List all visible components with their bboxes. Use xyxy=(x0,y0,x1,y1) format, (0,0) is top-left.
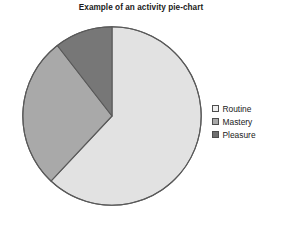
pie-chart-figure: Example of an activity pie-chart Routine… xyxy=(0,0,282,226)
legend-item-mastery[interactable]: Mastery xyxy=(212,115,280,128)
pie-svg xyxy=(22,26,202,206)
pie-chart-plot-area xyxy=(22,26,202,206)
legend-swatch-pleasure-icon xyxy=(212,131,219,138)
legend-item-pleasure[interactable]: Pleasure xyxy=(212,128,280,141)
chart-title: Example of an activity pie-chart xyxy=(0,3,282,13)
legend-swatch-routine-icon xyxy=(212,105,219,112)
legend-swatch-mastery-icon xyxy=(212,118,219,125)
legend-item-routine[interactable]: Routine xyxy=(212,102,280,115)
legend-label-pleasure: Pleasure xyxy=(223,130,256,140)
legend-label-routine: Routine xyxy=(223,104,252,114)
legend-label-mastery: Mastery xyxy=(223,117,253,127)
chart-legend: Routine Mastery Pleasure xyxy=(212,102,280,141)
